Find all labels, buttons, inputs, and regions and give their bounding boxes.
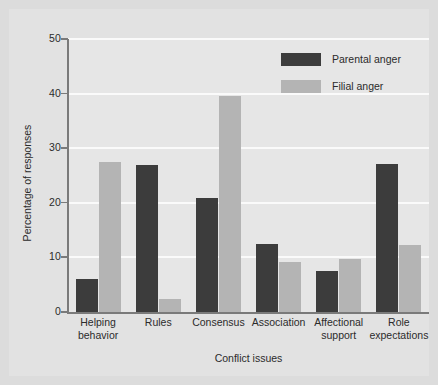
y-tick-label-40: 40 [33,87,61,99]
y-axis-title: Percentage of responses [21,103,33,263]
y-tick-20 [61,202,68,204]
chart-figure: 01020304050 Percentage of responses Help… [0,0,438,385]
bar-filial-anger-4 [339,259,361,313]
legend-label-parental-anger: Parental anger [332,53,401,65]
gridline-50 [68,38,429,40]
bar-filial-anger-1 [159,299,181,312]
bar-filial-anger-2 [219,96,241,312]
y-tick-40 [61,93,68,95]
bar-parental-anger-2 [196,198,218,312]
bar-filial-anger-0 [99,162,121,312]
bar-parental-anger-5 [376,164,398,313]
legend: Parental anger Filial anger [281,49,425,103]
y-tick-label-50: 50 [33,32,61,44]
y-tick-10 [61,256,68,258]
bar-filial-anger-5 [399,245,421,312]
chart-card: 01020304050 Percentage of responses Help… [9,9,429,376]
x-category-label-line: Role [357,316,438,329]
y-tick-label-20: 20 [33,196,61,208]
y-tick-50 [61,38,68,40]
bar-parental-anger-1 [136,165,158,312]
x-category-label-5: Roleexpectations [357,316,438,341]
bar-parental-anger-0 [76,279,98,312]
legend-swatch-parental-anger [281,53,321,66]
y-tick-label-10: 10 [33,250,61,262]
y-axis-line [67,39,69,313]
y-tick-30 [61,147,68,149]
y-tick-0 [61,311,68,313]
legend-item-parental-anger: Parental anger [281,49,425,69]
bar-filial-anger-3 [279,262,301,312]
bar-parental-anger-4 [316,271,338,312]
bar-parental-anger-3 [256,244,278,312]
gridline-10 [68,256,429,258]
gridline-20 [68,202,429,204]
x-axis-line [67,312,429,314]
gridline-30 [68,147,429,149]
legend-label-filial-anger: Filial anger [332,80,383,92]
x-category-label-line: expectations [357,329,438,342]
y-tick-label-30: 30 [33,141,61,153]
x-category-label-line: behavior [56,329,140,342]
legend-item-filial-anger: Filial anger [281,76,425,96]
x-axis-title: Conflict issues [68,352,429,364]
legend-swatch-filial-anger [281,80,321,93]
